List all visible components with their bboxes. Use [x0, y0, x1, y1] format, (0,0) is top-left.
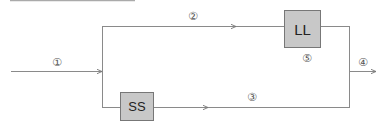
ll-box-label: LL — [294, 21, 311, 38]
label-input: ① — [52, 57, 62, 68]
label-bottom-branch: ③ — [247, 92, 257, 103]
label-output: ④ — [358, 57, 368, 68]
label-top-branch: ② — [188, 11, 198, 22]
ll-box: LL — [284, 10, 321, 48]
ss-box-label: SS — [128, 99, 145, 114]
ss-box: SS — [120, 92, 154, 121]
label-ll-output: ⑤ — [302, 53, 312, 64]
